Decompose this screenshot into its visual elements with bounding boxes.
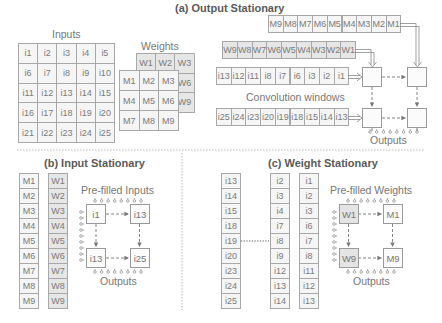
m-column-cell: M3 [19, 203, 39, 219]
input-column-cell: i14 [221, 188, 241, 204]
w-column-cell: W1 [48, 173, 68, 189]
input-column-cell: i8 [270, 233, 290, 249]
w-column-cell: W6 [48, 248, 68, 264]
input-column-cell: i20 [221, 248, 241, 264]
m-column-cell: M5 [19, 233, 39, 249]
input-column-cell: i9 [270, 248, 290, 264]
panel-c-outputs-label: Outputs [353, 275, 390, 287]
input-column-cell: i18 [221, 218, 241, 234]
pe-b-top-right: i13 [130, 204, 150, 224]
input-column-cell: i14 [270, 293, 290, 309]
m-column-cell: M9 [19, 293, 39, 309]
m-column-cell: M6 [19, 248, 39, 264]
input-column-cell: i25 [221, 293, 241, 309]
input-column-cell: i12 [270, 263, 290, 279]
input-column-cell: i3 [299, 203, 319, 219]
input-column-cell: i13 [270, 278, 290, 294]
w-column-cell: W5 [48, 233, 68, 249]
input-column-cell: i13 [221, 173, 241, 189]
input-column-cell: i15 [221, 203, 241, 219]
input-column-cell: i4 [270, 203, 290, 219]
w-column-cell: W2 [48, 188, 68, 204]
input-column-cell: i6 [299, 218, 319, 234]
panel-c-title: (c) Weight Stationary [268, 157, 378, 169]
input-column-cell: i23 [221, 263, 241, 279]
input-column-cell: i2 [299, 188, 319, 204]
w-column-cell: W3 [48, 203, 68, 219]
m-column-cell: M8 [19, 278, 39, 294]
panel-b-outputs-label: Outputs [100, 275, 137, 287]
pe-c-top-left: W1 [339, 204, 359, 224]
input-column-cell: i13 [299, 293, 319, 309]
pe-c-bottom-right: M9 [383, 248, 403, 268]
pe-c-top-right: M1 [383, 204, 403, 224]
m-column-cell: M2 [19, 188, 39, 204]
pe-b-top-left: i1 [86, 204, 106, 224]
input-column-cell: i1 [299, 173, 319, 189]
pe-b-bottom-right: i25 [130, 248, 150, 268]
input-column-cell: i3 [270, 188, 290, 204]
input-column-cell: i19 [221, 233, 241, 249]
w-column-cell: W9 [48, 293, 68, 309]
pe-b-bottom-left: i13 [86, 248, 106, 268]
input-column-cell: i2 [270, 173, 290, 189]
m-column-cell: M4 [19, 218, 39, 234]
prefilled-weights-label: Pre-filled Weights [330, 184, 412, 196]
input-column-cell: i12 [299, 278, 319, 294]
panel-b-title: (b) Input Stationary [44, 157, 145, 169]
w-column-cell: W8 [48, 278, 68, 294]
prefilled-inputs-label: Pre-filled Inputs [81, 184, 154, 196]
m-column-cell: M7 [19, 263, 39, 279]
pe-c-bottom-left: W9 [339, 248, 359, 268]
w-column-cell: W7 [48, 263, 68, 279]
w-column-cell: W4 [48, 218, 68, 234]
input-column-cell: i7 [299, 233, 319, 249]
input-column-cell: i24 [221, 278, 241, 294]
input-column-cell: i11 [299, 263, 319, 279]
input-column-cell: i7 [270, 218, 290, 234]
input-column-cell: i8 [299, 248, 319, 264]
m-column-cell: M1 [19, 173, 39, 189]
